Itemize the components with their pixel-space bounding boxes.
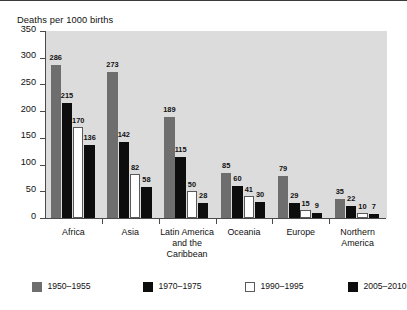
- bar-value-label: 85: [222, 162, 230, 169]
- bar: 142: [119, 142, 129, 218]
- bar: 35: [335, 199, 345, 218]
- bar: 85: [221, 173, 231, 218]
- legend-swatch-icon: [32, 282, 42, 292]
- bar-group-bars: 3522107: [329, 31, 386, 218]
- bar: 58: [141, 187, 151, 218]
- bar-group: 1891155028: [159, 31, 216, 218]
- chart-legend: 1950–19551970–19751990–19952005–2010: [0, 282, 407, 304]
- bar-group-bars: 85604130: [216, 31, 273, 218]
- legend-item[interactable]: 1970–1975: [143, 282, 202, 292]
- y-tick-label: 150: [21, 131, 36, 140]
- bar-value-label: 79: [279, 165, 287, 172]
- x-tick-mark: [102, 218, 103, 224]
- bar: 9: [312, 213, 322, 218]
- bar: 60: [232, 186, 242, 218]
- bar-group: 286215170136: [45, 31, 102, 218]
- bar-group: 7929159: [272, 31, 329, 218]
- bar: 41: [244, 196, 254, 218]
- bar: 79: [278, 176, 288, 218]
- legend-item[interactable]: 1990–1995: [245, 282, 304, 292]
- y-tick-label: 0: [31, 212, 36, 221]
- legend-label: 1990–1995: [261, 282, 304, 291]
- bar-value-label: 82: [131, 164, 139, 171]
- legend-swatch-icon: [348, 282, 358, 292]
- x-tick-mark: [216, 218, 217, 224]
- bar: 50: [187, 191, 197, 218]
- bar: 30: [255, 202, 265, 218]
- bar-value-label: 41: [245, 186, 253, 193]
- legend-label: 1970–1975: [159, 282, 202, 291]
- bar-value-label: 115: [175, 146, 187, 153]
- bar-value-label: 215: [61, 92, 73, 99]
- bar-value-label: 29: [290, 192, 298, 199]
- bar: 7: [369, 214, 379, 218]
- bar: 10: [357, 213, 367, 218]
- x-category-label-line: and the: [149, 238, 226, 249]
- bar: 136: [84, 145, 94, 218]
- bar-value-label: 58: [142, 176, 150, 183]
- x-tick-mark: [329, 218, 330, 224]
- bar-value-label: 10: [358, 203, 366, 210]
- bar-group: 3522107: [329, 31, 386, 218]
- x-category-label-line: Northern: [319, 227, 396, 238]
- bar-value-label: 286: [50, 54, 62, 61]
- bar: 170: [73, 127, 83, 218]
- bar-group-bars: 1891155028: [159, 31, 216, 218]
- bar-value-label: 170: [72, 117, 84, 124]
- bar-value-label: 22: [347, 195, 355, 202]
- y-tick-label: 250: [21, 78, 36, 87]
- bar: 28: [198, 203, 208, 218]
- legend-label: 1950–1955: [48, 282, 91, 291]
- bar: 22: [346, 206, 356, 218]
- bar-value-label: 35: [336, 188, 344, 195]
- chart-figure: Deaths per 1000 births 05010015020025030…: [0, 0, 407, 310]
- bar-value-label: 142: [118, 131, 130, 138]
- y-tick-label: 200: [21, 105, 36, 114]
- y-tick-mark: [40, 218, 45, 219]
- bar-value-label: 7: [372, 203, 376, 210]
- bar-value-label: 15: [301, 200, 309, 207]
- bar-group: 85604130: [216, 31, 273, 218]
- y-tick-label: 100: [21, 158, 36, 167]
- bar-value-label: 136: [83, 134, 95, 141]
- bar: 273: [107, 72, 117, 218]
- x-tick-mark: [272, 218, 273, 224]
- bar-group-bars: 2731428258: [102, 31, 159, 218]
- x-tick-mark: [159, 218, 160, 224]
- bar-group-bars: 286215170136: [45, 31, 102, 218]
- legend-item[interactable]: 1950–1955: [32, 282, 91, 292]
- x-category-label: NorthernAmerica: [319, 227, 396, 249]
- bar-value-label: 189: [163, 106, 175, 113]
- bar: 215: [62, 103, 72, 218]
- x-category-label-line: America: [319, 238, 396, 249]
- bar: 29: [289, 203, 299, 218]
- legend-label: 2005–2010: [364, 282, 407, 291]
- legend-swatch-icon: [143, 282, 153, 292]
- bar-value-label: 30: [256, 191, 264, 198]
- bar-group: 2731428258: [102, 31, 159, 218]
- y-tick-label: 350: [21, 25, 36, 34]
- bar: 82: [130, 174, 140, 218]
- bar-value-label: 28: [199, 192, 207, 199]
- bar-value-label: 50: [188, 181, 196, 188]
- bar: 286: [51, 65, 61, 218]
- legend-swatch-icon: [245, 282, 255, 292]
- y-tick-label: 50: [26, 185, 36, 194]
- bar-value-label: 273: [106, 61, 118, 68]
- y-tick-label: 300: [21, 51, 36, 60]
- x-category-label-line: Caribbean: [149, 249, 226, 260]
- bar-group-bars: 7929159: [272, 31, 329, 218]
- bar: 115: [175, 157, 185, 218]
- bar: 15: [300, 210, 310, 218]
- legend-item[interactable]: 2005–2010: [348, 282, 407, 292]
- bar-value-label: 9: [315, 202, 319, 209]
- bar-value-label: 60: [233, 175, 241, 182]
- bar: 189: [164, 117, 174, 218]
